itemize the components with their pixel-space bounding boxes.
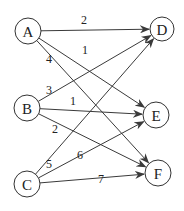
edges	[36, 29, 154, 183]
node-label: B	[22, 101, 32, 117]
node-c: C	[14, 171, 40, 197]
edge-c-f	[40, 174, 144, 183]
edge-a-f	[37, 41, 149, 163]
node-f: F	[145, 160, 171, 186]
edge-weight-b-d: 3	[46, 83, 52, 97]
edge-weight-b-e: 1	[70, 94, 76, 108]
edge-weight-c-e: 6	[77, 148, 83, 162]
node-label: C	[22, 177, 32, 193]
edge-b-e	[40, 109, 142, 115]
edge-b-d	[38, 36, 151, 102]
edge-weight-b-f: 2	[52, 122, 58, 136]
node-b: B	[14, 95, 40, 121]
node-e: E	[143, 102, 169, 128]
node-d: D	[150, 17, 174, 41]
node-label: E	[151, 108, 160, 124]
edge-weight-a-d: 2	[81, 13, 87, 27]
edge-weight-a-f: 4	[46, 52, 52, 66]
edge-weights: 214312567	[46, 13, 104, 186]
node-label: F	[154, 166, 162, 182]
edge-weight-c-d: 5	[46, 157, 52, 171]
edge-weight-c-f: 7	[98, 172, 104, 186]
edge-weight-a-e: 1	[82, 43, 88, 57]
edge-a-d	[41, 29, 149, 31]
graph-diagram: ABCDEF 214312567	[0, 0, 184, 211]
node-label: A	[23, 24, 34, 40]
node-label: D	[157, 22, 168, 38]
node-a: A	[15, 18, 41, 44]
